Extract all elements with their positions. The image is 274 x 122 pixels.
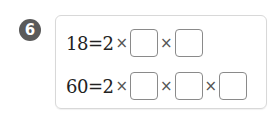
times-symbol: × (160, 34, 173, 52)
times-symbol: × (160, 77, 173, 95)
problem-number-badge: 6 (19, 19, 41, 41)
times-symbol: × (205, 77, 218, 95)
equation-lhs: 18=2 (66, 33, 113, 54)
equation-row-60: 60=2 × × × (66, 71, 247, 101)
answer-blank-2[interactable] (175, 29, 203, 57)
answer-blank-1[interactable] (130, 72, 158, 100)
equation-row-18: 18=2 × × (66, 28, 203, 58)
equation-lhs: 60=2 (66, 76, 113, 97)
times-symbol: × (115, 34, 128, 52)
answer-blank-3[interactable] (219, 72, 247, 100)
times-symbol: × (115, 77, 128, 95)
answer-blank-2[interactable] (175, 72, 203, 100)
answer-blank-1[interactable] (130, 29, 158, 57)
